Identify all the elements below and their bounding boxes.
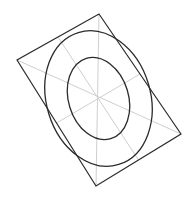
- diagram-canvas: [0, 0, 196, 198]
